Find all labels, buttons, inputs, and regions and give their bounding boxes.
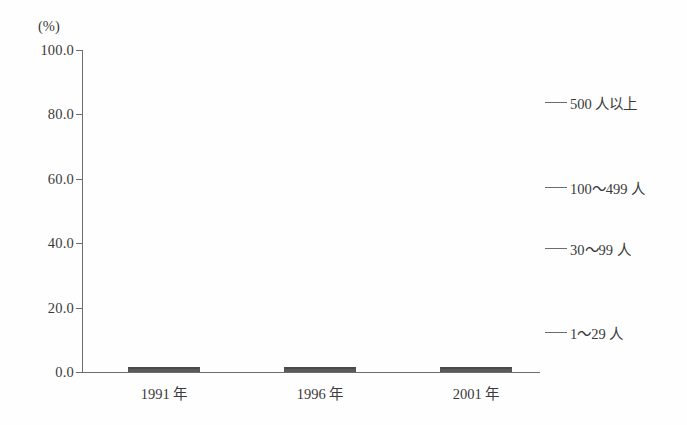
- x-axis-label-1991: 1991 年: [141, 382, 188, 403]
- legend-item-500-plus: 500 人以上: [545, 92, 637, 113]
- bar-1991-segment-500-plus: [129, 367, 199, 369]
- y-tick-label-60: 60.0: [48, 170, 74, 187]
- legend-leader-line-icon: [545, 332, 567, 333]
- bar-2001-segment-30-99: [441, 370, 511, 372]
- bar-2001: [440, 367, 512, 372]
- y-tick-label-0: 0.0: [55, 364, 74, 381]
- bar-1996-segment-100-499: [285, 369, 355, 370]
- legend-label-1-29: 1～29 人: [570, 322, 623, 343]
- y-tick-label-100: 100.0: [40, 42, 74, 59]
- legend-leader-line-icon: [545, 187, 567, 188]
- legend-item-30-99: 30～99 人: [545, 238, 631, 259]
- legend-label-100-499: 100～499 人: [570, 177, 645, 198]
- bar-1996-segment-500-plus: [285, 367, 355, 369]
- y-tick-label-80: 80.0: [48, 106, 74, 123]
- legend-item-1-29: 1～29 人: [545, 322, 623, 343]
- legend-leader-line-icon: [545, 102, 567, 103]
- y-axis-unit-label: (%): [38, 18, 60, 35]
- plot-area: 0.0 20.0 40.0 60.0 80.0 100.0: [82, 50, 540, 372]
- legend-label-30-99: 30～99 人: [570, 238, 631, 259]
- x-axis-label-1996: 1996 年: [297, 382, 344, 403]
- y-tick-label-40: 40.0: [48, 235, 74, 252]
- legend-item-100-499: 100～499 人: [545, 177, 645, 198]
- bar-1996: [284, 367, 356, 372]
- bar-2001-segment-500-plus: [441, 367, 511, 369]
- bar-1991-segment-100-499: [129, 369, 199, 370]
- y-tick-label-20: 20.0: [48, 299, 74, 316]
- bar-1991-segment-30-99: [129, 370, 199, 372]
- bar-1996-segment-30-99: [285, 370, 355, 372]
- bar-1991: [128, 367, 200, 372]
- x-axis-label-2001: 2001 年: [453, 382, 500, 403]
- bar-2001-segment-100-499: [441, 369, 511, 370]
- legend-leader-line-icon: [545, 248, 567, 249]
- legend-label-500-plus: 500 人以上: [570, 92, 637, 113]
- y-axis-line: [82, 50, 83, 372]
- x-axis-line: [82, 372, 540, 373]
- chart-page: (%) 0.0 20.0 40.0 60.0 80.0 100.0: [0, 0, 687, 425]
